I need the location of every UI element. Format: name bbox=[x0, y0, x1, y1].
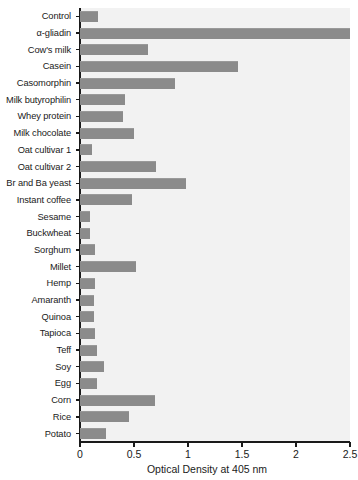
category-label: Tapioca bbox=[0, 325, 76, 342]
x-axis-tick bbox=[187, 442, 188, 447]
y-axis-tick bbox=[76, 333, 81, 334]
category-label: Cow's milk bbox=[0, 41, 76, 58]
bar bbox=[80, 211, 90, 222]
category-label: Hemp bbox=[0, 275, 76, 292]
y-axis-tick bbox=[76, 49, 81, 50]
y-axis-tick bbox=[76, 433, 81, 434]
bar bbox=[80, 28, 350, 39]
category-label: Instant coffee bbox=[0, 192, 76, 209]
category-label: Potato bbox=[0, 425, 76, 442]
x-axis-tick-label: 2 bbox=[293, 448, 299, 460]
x-axis-tick-labels: 00.511.522.5 bbox=[0, 448, 358, 462]
bar-row bbox=[80, 275, 350, 292]
bar bbox=[80, 345, 97, 356]
category-label: Egg bbox=[0, 375, 76, 392]
x-axis-tick-label: 0 bbox=[77, 448, 83, 460]
y-axis-tick bbox=[76, 366, 81, 367]
bar-row bbox=[80, 342, 350, 359]
category-label: Corn bbox=[0, 392, 76, 409]
bar bbox=[80, 428, 106, 439]
category-label: Casomorphin bbox=[0, 75, 76, 92]
category-label: Milk butyrophilin bbox=[0, 91, 76, 108]
bar-row bbox=[80, 225, 350, 242]
bar-row bbox=[80, 358, 350, 375]
x-axis-title: Optical Density at 405 nm bbox=[0, 463, 358, 475]
category-label: Teff bbox=[0, 342, 76, 359]
y-axis-tick bbox=[76, 199, 81, 200]
x-axis-tick-label: 1 bbox=[185, 448, 191, 460]
bar-row bbox=[80, 409, 350, 426]
bar bbox=[80, 395, 155, 406]
bar bbox=[80, 378, 97, 389]
category-label: Buckwheat bbox=[0, 225, 76, 242]
bar bbox=[80, 244, 95, 255]
y-axis-tick bbox=[76, 32, 81, 33]
category-label: Control bbox=[0, 8, 76, 25]
x-axis-title-text: Optical Density at 405 nm bbox=[91, 463, 267, 475]
bar-row bbox=[80, 25, 350, 42]
category-axis-labels: Controlα-gliadinCow's milkCaseinCasomorp… bbox=[0, 8, 76, 442]
y-axis-tick bbox=[76, 216, 81, 217]
y-axis-tick bbox=[76, 249, 81, 250]
category-label: Oat cultivar 2 bbox=[0, 158, 76, 175]
y-axis-tick bbox=[76, 349, 81, 350]
bar-row bbox=[80, 58, 350, 75]
bar-chart: Controlα-gliadinCow's milkCaseinCasomorp… bbox=[0, 0, 358, 480]
bar bbox=[80, 295, 94, 306]
bar bbox=[80, 311, 94, 322]
y-axis-tick bbox=[76, 299, 81, 300]
bar-row bbox=[80, 192, 350, 209]
y-axis-tick bbox=[76, 383, 81, 384]
bar-row bbox=[80, 242, 350, 259]
bar-row bbox=[80, 175, 350, 192]
y-axis-tick bbox=[76, 16, 81, 17]
x-axis-tick-label: 0.5 bbox=[127, 448, 142, 460]
bar-row bbox=[80, 392, 350, 409]
category-label: Millet bbox=[0, 258, 76, 275]
bar-row bbox=[80, 108, 350, 125]
bar bbox=[80, 11, 98, 22]
bar bbox=[80, 161, 156, 172]
bar bbox=[80, 278, 95, 289]
bar bbox=[80, 361, 104, 372]
bar-row bbox=[80, 125, 350, 142]
bar bbox=[80, 61, 238, 72]
bar-row bbox=[80, 208, 350, 225]
category-label: Casein bbox=[0, 58, 76, 75]
y-axis-tick bbox=[76, 266, 81, 267]
bar bbox=[80, 228, 90, 239]
bar-row bbox=[80, 308, 350, 325]
y-axis-tick bbox=[76, 233, 81, 234]
bar-row bbox=[80, 75, 350, 92]
bar bbox=[80, 261, 136, 272]
bar bbox=[80, 194, 132, 205]
bar-series bbox=[80, 8, 350, 442]
y-axis-tick bbox=[76, 316, 81, 317]
bar-row bbox=[80, 41, 350, 58]
bar-row bbox=[80, 325, 350, 342]
bar bbox=[80, 178, 186, 189]
bar-row bbox=[80, 142, 350, 159]
category-label: Sesame bbox=[0, 208, 76, 225]
category-label: Oat cultivar 1 bbox=[0, 142, 76, 159]
y-axis-tick bbox=[76, 283, 81, 284]
bar-row bbox=[80, 91, 350, 108]
bar-row bbox=[80, 292, 350, 309]
y-axis-tick bbox=[76, 183, 81, 184]
y-axis-tick bbox=[76, 132, 81, 133]
y-axis-tick bbox=[76, 416, 81, 417]
bar bbox=[80, 411, 129, 422]
bar bbox=[80, 94, 125, 105]
y-axis-tick bbox=[76, 166, 81, 167]
bar bbox=[80, 144, 92, 155]
bar-row bbox=[80, 8, 350, 25]
category-label: Amaranth bbox=[0, 292, 76, 309]
bar bbox=[80, 128, 134, 139]
category-label: Milk chocolate bbox=[0, 125, 76, 142]
y-axis-tick bbox=[76, 149, 81, 150]
category-label: Sorghum bbox=[0, 242, 76, 259]
category-label: α-gliadin bbox=[0, 25, 76, 42]
bar bbox=[80, 44, 148, 55]
category-label: Soy bbox=[0, 358, 76, 375]
y-axis-tick bbox=[76, 99, 81, 100]
